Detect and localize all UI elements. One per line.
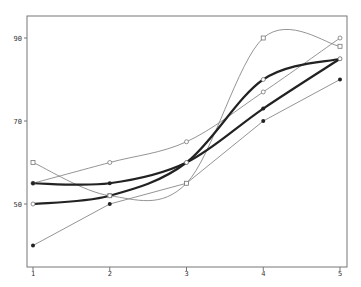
x-tick-label: 1 xyxy=(31,270,35,278)
data-point xyxy=(261,107,265,111)
data-point xyxy=(108,161,112,165)
data-point xyxy=(185,161,189,165)
data-point xyxy=(261,78,265,82)
data-point xyxy=(108,202,112,206)
data-point xyxy=(185,181,189,185)
data-point xyxy=(31,202,35,206)
data-point xyxy=(338,44,342,48)
series-line-thick-filled xyxy=(33,59,340,185)
data-point xyxy=(261,119,265,123)
series-markers xyxy=(31,36,342,248)
data-point xyxy=(338,36,342,40)
x-axis: 12345 xyxy=(31,267,342,278)
y-tick-label: 70 xyxy=(14,118,22,126)
x-tick-label: 4 xyxy=(261,270,265,278)
y-axis: 507090 xyxy=(14,35,27,209)
y-tick-label: 50 xyxy=(14,201,22,209)
data-point xyxy=(338,57,342,61)
series-line-thin-open-square xyxy=(33,29,340,200)
data-point xyxy=(31,161,35,165)
data-point xyxy=(185,140,189,144)
y-tick-label: 90 xyxy=(14,35,22,43)
series-lines xyxy=(33,29,340,245)
x-tick-label: 2 xyxy=(108,270,112,278)
data-point xyxy=(31,244,35,248)
data-point xyxy=(338,78,342,82)
data-point xyxy=(261,36,265,40)
data-point xyxy=(261,90,265,94)
data-point xyxy=(31,181,35,185)
data-point xyxy=(108,194,112,198)
x-tick-label: 5 xyxy=(338,270,342,278)
line-chart: 507090 12345 xyxy=(0,0,361,287)
x-tick-label: 3 xyxy=(184,270,188,278)
data-point xyxy=(108,181,112,185)
